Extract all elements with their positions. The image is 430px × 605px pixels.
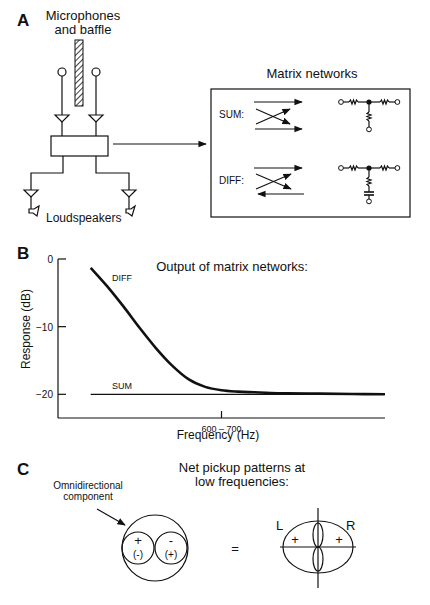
microphone-right-icon bbox=[92, 68, 100, 115]
x-axis-label: Frequency (Hz) bbox=[177, 428, 260, 442]
series-line-diff bbox=[91, 268, 385, 395]
series-label-diff: DIFF bbox=[112, 273, 132, 283]
label-l: L bbox=[276, 518, 283, 533]
mic-label-line1: Microphones bbox=[46, 8, 121, 23]
loudspeaker-right-icon bbox=[126, 206, 135, 216]
sum-signal-flow-icon bbox=[254, 102, 302, 129]
amplifier-out-right-icon bbox=[122, 190, 136, 197]
microphone-left-icon bbox=[58, 68, 66, 115]
y-tick-label: −20 bbox=[36, 389, 53, 400]
y-axis-label: Response (dB) bbox=[19, 289, 33, 369]
amplifier-left-icon bbox=[55, 115, 69, 122]
panel-a-letter: A bbox=[17, 11, 29, 30]
amplifier-out-left-icon bbox=[24, 190, 38, 197]
sum-t-network-icon bbox=[339, 99, 400, 131]
mic-label-line2: and baffle bbox=[55, 22, 112, 37]
panel-b: B Output of matrix networks: 0−10−20 600… bbox=[17, 244, 385, 442]
pickup-title-line2: low frequencies: bbox=[195, 474, 289, 489]
panel-b-letter: B bbox=[17, 244, 29, 263]
matrix-box bbox=[51, 136, 108, 156]
amplifier-right-icon bbox=[89, 115, 103, 122]
omni-pointer-arrow bbox=[97, 509, 125, 525]
loudspeakers-label: Loudspeakers bbox=[46, 211, 121, 225]
omni-label-line2: component bbox=[63, 491, 113, 502]
chart-title: Output of matrix networks: bbox=[156, 259, 308, 274]
result-right-sign: + bbox=[335, 532, 343, 547]
baffle-icon bbox=[75, 40, 83, 106]
right-lobe-sign: - bbox=[169, 533, 173, 548]
omni-label-line1: Omnidirectional bbox=[53, 480, 122, 491]
diff-t-network-icon bbox=[339, 165, 400, 203]
panel-c-letter: C bbox=[17, 460, 29, 479]
panel-c: C Net pickup patterns at low frequencies… bbox=[17, 460, 356, 588]
diff-label: DIFF: bbox=[219, 175, 244, 186]
y-tick-label: 0 bbox=[47, 254, 53, 265]
result-left-sign: + bbox=[291, 532, 299, 547]
diff-signal-flow-icon bbox=[254, 168, 304, 194]
panel-a: A Microphones and baffle Loudspeake bbox=[17, 8, 410, 225]
figure: A Microphones and baffle Loudspeake bbox=[0, 0, 430, 605]
matrix-networks-title: Matrix networks bbox=[266, 66, 358, 81]
sum-label: SUM: bbox=[219, 109, 244, 120]
right-lobe-alt-sign: (+) bbox=[165, 549, 178, 560]
series-label-sum: SUM bbox=[112, 381, 132, 391]
left-lobe-alt-sign: (-) bbox=[133, 549, 143, 560]
equals-sign: = bbox=[231, 541, 239, 556]
label-r: R bbox=[346, 518, 355, 533]
pickup-title-line1: Net pickup patterns at bbox=[179, 460, 306, 475]
left-lobe-sign: + bbox=[134, 533, 142, 548]
response-chart: 0−10−20 600 – 700 DIFFSUM bbox=[36, 254, 385, 434]
y-tick-label: −10 bbox=[36, 322, 53, 333]
